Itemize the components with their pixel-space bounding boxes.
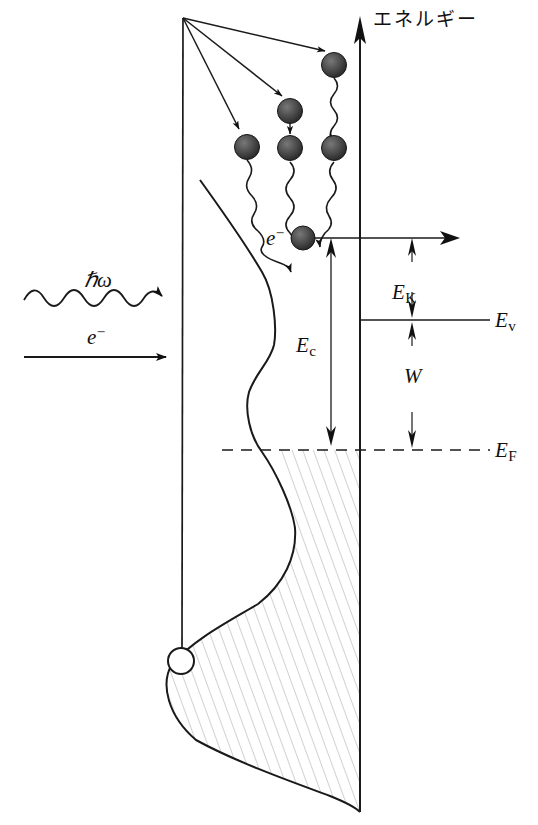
- emitted-electron-label: e−: [266, 226, 284, 249]
- primary-excitation-arrows: [183, 18, 325, 129]
- hole-circle: [168, 648, 194, 674]
- Ec-measure-arrow: [326, 238, 336, 446]
- electron-sphere: [322, 136, 347, 161]
- incident-electron-label: e−: [87, 325, 105, 348]
- electron-sphere: [235, 135, 260, 160]
- energy-diagram: [0, 0, 538, 825]
- EF-label: EF: [495, 440, 517, 464]
- EK-measure-arrow: [408, 238, 416, 318]
- occupied-states-region: [169, 450, 360, 812]
- electron-sphere: [278, 99, 303, 124]
- photon-energy-label: ℏω: [84, 270, 112, 291]
- incident-photon-arrow: [24, 290, 162, 306]
- energy-axis-label: エネルギー: [373, 10, 478, 29]
- emitted-electron-axis: [303, 231, 460, 245]
- W-label: W: [404, 366, 422, 387]
- Ec-label: Ec: [296, 335, 316, 359]
- emitted-electron-sphere: [291, 226, 315, 250]
- Ev-label: Ev: [495, 310, 516, 334]
- EK-label: EK: [392, 282, 416, 306]
- electron-sphere: [278, 136, 303, 161]
- electron-sphere: [322, 53, 347, 78]
- crystal-boundary-line: [182, 18, 183, 648]
